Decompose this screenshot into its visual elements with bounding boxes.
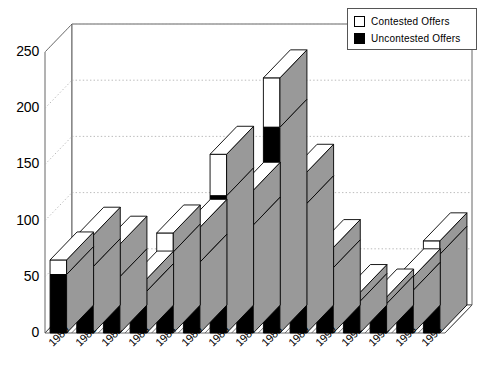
y-axis-tick-250: 250 — [3, 43, 39, 59]
legend-item-uncontested: Uncontested Offers — [354, 30, 471, 47]
legend-item-contested: Contested Offers — [354, 13, 471, 30]
legend-label-uncontested: Uncontested Offers — [371, 33, 461, 44]
legend-swatch-uncontested — [354, 33, 365, 44]
legend-swatch-contested — [354, 16, 365, 27]
y-axis-tick-150: 150 — [3, 155, 39, 171]
y-axis-tick-100: 100 — [3, 212, 39, 228]
legend-label-contested: Contested Offers — [371, 16, 450, 27]
y-axis-tick-200: 200 — [3, 99, 39, 115]
y-axis-tick-0: 0 — [3, 324, 39, 340]
y-axis-tick-50: 50 — [3, 268, 39, 284]
chart-container: 050100150200250 198019811982198319841985… — [0, 0, 485, 369]
chart-legend: Contested Offers Uncontested Offers — [347, 8, 477, 50]
chart-svg — [0, 0, 485, 369]
plot-area — [0, 0, 485, 369]
